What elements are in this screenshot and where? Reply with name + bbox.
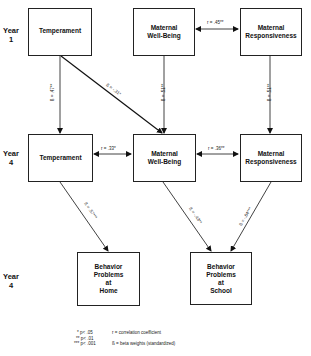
node-label-line: Well-Being (147, 32, 180, 40)
node-label-line: Maternal (245, 24, 296, 32)
node-label: Temperament (39, 154, 81, 162)
edge-label-mwb1-mwb4: ß = .51** (161, 84, 166, 102)
node-label-line: Well-Being (148, 158, 181, 166)
year-label-row3: Year 4 (0, 273, 22, 290)
node-maternal-wellbeing-year4: MaternalWell-Being (133, 134, 196, 182)
legend-p001: *** p< .001 (74, 341, 96, 347)
node-label-line: Responsiveness (245, 32, 296, 40)
legend-definitions: r = correlation coefficient ß = beta wei… (112, 330, 175, 347)
node-label-line: at (206, 279, 236, 287)
year-number: 4 (0, 159, 22, 168)
edge-label-mr1-mr4: ß = .51** (267, 84, 272, 102)
node-label-line: Behavior (94, 263, 124, 271)
node-behavior-problems-home: Behavior Problems at Home (77, 252, 140, 306)
node-label-line: at (94, 279, 124, 287)
node-label-line: School (206, 287, 236, 295)
node-maternal-responsiveness-year1: MaternalResponsiveness (240, 8, 302, 56)
node-label-line: Maternal (148, 150, 181, 158)
legend-significance: * p< .05 ** p< .01 *** p< .001 (74, 330, 96, 347)
node-temperament-year4: Temperament (28, 134, 93, 182)
edge-mr4-school (231, 182, 271, 251)
node-label-line: Problems (206, 271, 236, 279)
node-maternal-wellbeing-year1: MaternalWell-Being (133, 8, 195, 56)
edge-label-mwb1-mr1: r = .45** (207, 20, 223, 25)
node-behavior-problems-school: Behavior Problems at School (190, 252, 252, 305)
edge-label-temp4-mwb4: r = .33* (101, 146, 116, 151)
node-maternal-responsiveness-year4: MaternalResponsiveness (240, 134, 302, 182)
node-label-line: Home (94, 287, 124, 295)
node-label-line: Behavior (206, 263, 236, 271)
year-label-row1: Year 1 (0, 27, 22, 44)
edge-label-mwb4-mr4: r = .36** (208, 146, 224, 151)
node-label: Temperament (39, 27, 81, 35)
year-number: 4 (0, 282, 22, 291)
edge-label-temp1-temp4: ß = .47** (50, 84, 55, 102)
legend-p05: * p< .05 (74, 330, 96, 336)
year-number: 1 (0, 36, 22, 45)
node-label-line: Responsiveness (245, 158, 296, 166)
legend-beta-definition: ß = beta weights (standardized) (112, 341, 175, 347)
year-label-row2: Year 4 (0, 150, 22, 167)
node-label-line: Maternal (147, 24, 180, 32)
node-label-line: Maternal (245, 150, 296, 158)
edge-temp4-home (60, 182, 108, 251)
node-label-line: Problems (94, 271, 124, 279)
node-temperament-year1: Temperament (28, 8, 92, 56)
edge-temp1-mwb4 (61, 56, 162, 133)
edge-mwb4-school (163, 182, 211, 251)
